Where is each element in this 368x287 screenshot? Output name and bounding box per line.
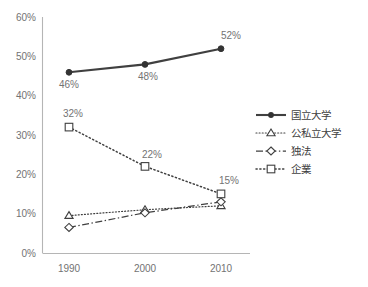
series-line-kokuritsu <box>69 49 221 73</box>
marker-square-2000 <box>141 163 149 171</box>
legend-label-koushiritsu-daigaku: 公私立大学 <box>291 127 341 139</box>
legend: 国立大学 公私立大学 独法 企業 <box>256 109 341 175</box>
legend-label-kigyou: 企業 <box>291 163 312 175</box>
chart-container: 60% 50% 40% 30% 20% 10% 0% 1990 2000 201… <box>0 0 368 287</box>
data-label-22: 22% <box>142 149 162 160</box>
axes <box>43 17 251 254</box>
y-tick-40: 40% <box>16 90 36 101</box>
legend-item-kokuritsu-daigaku[interactable]: 国立大学 <box>256 109 331 121</box>
data-label-46: 46% <box>59 79 79 90</box>
marker-diamond-2010 <box>217 198 225 206</box>
data-label-15: 15% <box>219 175 239 186</box>
legend-label-dokuhou: 独法 <box>291 145 311 157</box>
marker-square-1990 <box>65 123 73 131</box>
legend-item-kigyou[interactable]: 企業 <box>256 163 312 175</box>
y-tick-50: 50% <box>16 51 36 62</box>
y-axis-tick-labels: 60% 50% 40% 30% 20% 10% 0% <box>16 12 36 259</box>
data-label-52: 52% <box>221 30 241 41</box>
marker-diamond-1990 <box>65 223 73 231</box>
y-tick-60: 60% <box>16 12 36 23</box>
legend-marker-open-triangle-icon <box>267 129 275 136</box>
x-tick-1990: 1990 <box>58 263 81 274</box>
marker-circle-2010 <box>218 46 224 52</box>
legend-item-dokuhou[interactable]: 独法 <box>256 145 311 157</box>
y-tick-10: 10% <box>16 208 36 219</box>
y-tick-0: 0% <box>22 248 37 259</box>
data-label-32: 32% <box>63 108 83 119</box>
x-axis-tick-labels: 1990 2000 2010 <box>58 263 233 274</box>
data-labels: 46% 48% 52% 32% 22% 15% <box>59 30 241 186</box>
x-tick-2010: 2010 <box>210 263 233 274</box>
y-tick-30: 30% <box>16 130 36 141</box>
x-tick-2000: 2000 <box>134 263 157 274</box>
series-kigyou <box>65 123 225 197</box>
y-tick-20: 20% <box>16 169 36 180</box>
legend-label-kokuritsu-daigaku: 国立大学 <box>291 109 331 121</box>
line-chart: 60% 50% 40% 30% 20% 10% 0% 1990 2000 201… <box>0 0 368 287</box>
series-line-kigyou <box>69 127 221 194</box>
marker-square-2010 <box>217 190 225 198</box>
legend-item-koushiritsu-daigaku[interactable]: 公私立大学 <box>256 127 341 139</box>
marker-circle-2000 <box>142 62 148 68</box>
legend-marker-open-square-icon <box>267 165 275 173</box>
data-label-48: 48% <box>138 71 158 82</box>
legend-marker-filled-circle-icon <box>268 112 274 118</box>
series-dokuhou <box>65 198 225 232</box>
legend-marker-open-diamond-icon <box>267 147 275 155</box>
marker-circle-1990 <box>66 69 72 75</box>
